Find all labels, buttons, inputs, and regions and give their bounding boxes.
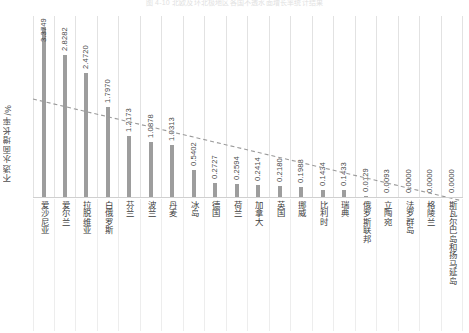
bar[interactable] <box>149 142 153 197</box>
category-tick-11: 英国 <box>270 199 292 331</box>
category-tick-18: 格陵兰 <box>420 199 442 331</box>
bar-value-label: 0.2180 <box>275 156 285 184</box>
category-label: 丹麦 <box>168 201 176 218</box>
category-tick-6: 丹麦 <box>162 199 184 331</box>
category-label: 拉脱维亚 <box>82 201 90 235</box>
category-label: 格陵兰 <box>426 201 434 226</box>
category-label: 英国 <box>276 201 284 218</box>
category-tick-1: 爱尔兰 <box>55 199 77 331</box>
plot-column: 0.2594 <box>227 16 249 197</box>
plot-column: 0.1988 <box>291 16 313 197</box>
plot-column: 2.4720 <box>76 16 98 197</box>
bar[interactable] <box>84 73 88 197</box>
category-tick-15: 俄罗斯联邦 <box>356 199 378 331</box>
category-label: 挪威 <box>297 201 305 218</box>
category-tick-13: 比利时 <box>313 199 335 331</box>
category-tick-3: 白俄罗斯 <box>98 199 120 331</box>
bar[interactable] <box>106 107 110 197</box>
bar-value-label: 0.0000 <box>404 167 414 195</box>
category-tick-19: 斯瓦尔巴岛和扬马延岛 <box>442 199 464 331</box>
plot-column: 1.0313 <box>162 16 184 197</box>
bar[interactable] <box>42 27 46 197</box>
bar-value-label: 0.1434 <box>318 160 328 188</box>
category-label: 瑞典 <box>340 201 348 218</box>
bar-value-label: 0.2727 <box>210 153 220 181</box>
bar[interactable] <box>192 170 196 197</box>
bar[interactable] <box>299 187 303 197</box>
category-label: 爱尔兰 <box>61 201 69 226</box>
bar-value-label: 0.0129 <box>361 166 371 194</box>
category-label: 爱沙尼亚 <box>40 201 48 235</box>
bar[interactable] <box>342 190 346 197</box>
bar-value-label: 0.5402 <box>189 140 199 168</box>
plot-column: 0.2414 <box>248 16 270 197</box>
plot-column: 0.0000 <box>442 16 464 197</box>
category-tick-5: 波兰 <box>141 199 163 331</box>
category-tick-17: 法罗群岛 <box>399 199 421 331</box>
plot-column: 0.0000 <box>399 16 421 197</box>
plot-column: 0.5402 <box>184 16 206 197</box>
bar[interactable] <box>127 136 131 197</box>
bar[interactable] <box>170 145 174 197</box>
bar[interactable] <box>278 186 282 197</box>
category-label: 比利时 <box>319 201 327 226</box>
bar-value-label: 2.8282 <box>60 25 70 53</box>
plot-column: 1.7970 <box>98 16 120 197</box>
category-tick-0: 爱沙尼亚 <box>33 199 55 331</box>
bar[interactable] <box>235 184 239 197</box>
bar[interactable] <box>63 55 67 197</box>
bar-value-label: 0.2594 <box>232 154 242 182</box>
plot-column: 0.0000 <box>420 16 442 197</box>
plot-column: 1.2173 <box>119 16 141 197</box>
x-axis-baseline <box>33 197 463 198</box>
bar-value-label: 0.0000 <box>447 167 457 195</box>
category-tick-16: 立陶宛 <box>377 199 399 331</box>
category-label: 俄罗斯联邦 <box>362 201 370 243</box>
category-label: 立陶宛 <box>383 201 391 226</box>
plot-column: 0.2727 <box>205 16 227 197</box>
bar-value-label: 1.0878 <box>146 112 156 140</box>
bar[interactable] <box>256 185 260 197</box>
category-label: 斯瓦尔巴岛和扬马延岛 <box>448 201 456 285</box>
bar-value-label: 0.0093 <box>382 167 392 195</box>
category-label: 芬兰 <box>125 201 133 218</box>
bar-value-label: 1.2173 <box>124 106 134 134</box>
category-tick-7: 冰岛 <box>184 199 206 331</box>
plot-column: 0.2180 <box>270 16 292 197</box>
category-label: 白俄罗斯 <box>104 201 112 235</box>
category-label: 加拿大 <box>254 201 262 226</box>
plot-column: 0.0093 <box>377 16 399 197</box>
category-label: 冰岛 <box>190 201 198 218</box>
category-label: 波兰 <box>147 201 155 218</box>
category-tick-14: 瑞典 <box>334 199 356 331</box>
plot-column: 1.0878 <box>141 16 163 197</box>
y-axis-title: 不透水面增长率/% <box>2 78 16 208</box>
category-tick-9: 荷兰 <box>227 199 249 331</box>
plot-column: 2.8282 <box>55 16 77 197</box>
category-tick-8: 德国 <box>205 199 227 331</box>
bar-value-label: 1.7970 <box>103 77 113 105</box>
bar-chart: 图 4-10 北欧及环北极地区各国不透水面增长率统计结果 不透水面增长率/% 3… <box>0 0 469 333</box>
category-tick-2: 拉脱维亚 <box>76 199 98 331</box>
category-tick-10: 加拿大 <box>248 199 270 331</box>
plot-column: 0.0129 <box>356 16 378 197</box>
category-tick-4: 芬兰 <box>119 199 141 331</box>
bar-value-label: 1.0313 <box>167 115 177 143</box>
category-label: 法罗群岛 <box>405 201 413 235</box>
plot-column: 0.1433 <box>334 16 356 197</box>
category-label: 荷兰 <box>233 201 241 218</box>
bar-value-label: 0.1988 <box>296 157 306 185</box>
plot-column: 3.3749 <box>33 16 55 197</box>
plot-column: 0.1434 <box>313 16 335 197</box>
category-axis: 爱沙尼亚爱尔兰拉脱维亚白俄罗斯芬兰波兰丹麦冰岛德国荷兰加拿大英国挪威比利时瑞典俄… <box>33 199 463 333</box>
category-label: 德国 <box>211 201 219 218</box>
bar[interactable] <box>321 190 325 197</box>
bar-value-label: 0.0000 <box>425 167 435 195</box>
bar-value-label: 3.3749 <box>39 16 49 44</box>
plot-area: 3.37492.82822.47201.79701.21731.08781.03… <box>33 16 463 197</box>
bar-value-label: 0.2414 <box>253 155 263 183</box>
bar[interactable] <box>213 183 217 197</box>
bar-value-label: 0.1433 <box>339 160 349 188</box>
bar-value-label: 2.4720 <box>81 43 91 71</box>
category-tick-12: 挪威 <box>291 199 313 331</box>
